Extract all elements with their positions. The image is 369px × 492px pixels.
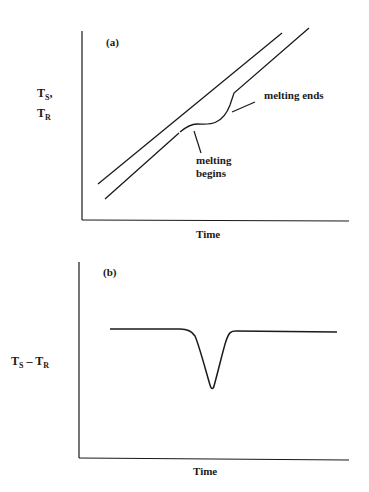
panel-b-tag: (b)	[103, 266, 116, 278]
annotation-melting-begins-line2: begins	[196, 167, 226, 179]
ylabel-b-tr-sub: R	[43, 361, 49, 370]
ylabel-tr-main: T	[37, 106, 45, 120]
annotation-melting-begins-line1: melting	[196, 154, 231, 166]
panel-a-xlabel: Time	[196, 228, 220, 240]
panel-b-axes	[79, 262, 349, 460]
panel-a-ylabel-tr: TR	[37, 106, 51, 122]
melting-begins-leader	[194, 131, 201, 153]
figure-canvas	[0, 0, 369, 492]
panel-b-ylabel: TS – TR	[11, 354, 49, 370]
differential-temperature-curve	[110, 329, 337, 389]
panel-a-axes	[82, 31, 349, 221]
ylabel-b-minus: –	[23, 354, 35, 368]
panel-b-xlabel: Time	[193, 465, 217, 477]
melting-ends-leader	[232, 102, 255, 112]
ylabel-ts-suffix: ,	[49, 86, 52, 100]
reference-temperature-line	[98, 33, 282, 184]
annotation-melting-ends: melting ends	[264, 89, 324, 101]
ylabel-tr-sub: R	[45, 113, 51, 122]
panel-a-ylabel-ts: TS,	[37, 86, 52, 102]
ylabel-b-ts-main: T	[11, 354, 19, 368]
ylabel-ts-main: T	[37, 86, 45, 100]
panel-a-tag: (a)	[106, 36, 119, 48]
